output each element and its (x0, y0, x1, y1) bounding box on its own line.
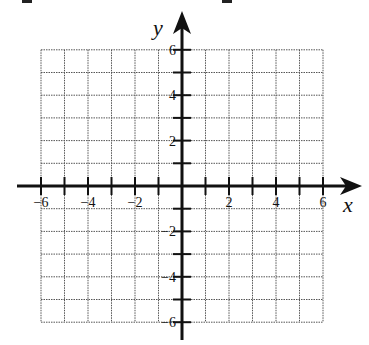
y-tick-label: −6 (161, 315, 176, 330)
coordinate-plane: −6−4−2246642−2−4−6 x y (0, 0, 369, 345)
x-tick-label: −4 (81, 195, 96, 210)
y-tick-label: 6 (169, 43, 176, 58)
y-tick-label: 4 (169, 88, 176, 103)
y-tick-label: 2 (169, 134, 176, 149)
axes (17, 11, 362, 340)
y-axis-label: y (151, 15, 163, 40)
x-tick-label: −2 (128, 195, 143, 210)
x-tick-label: 4 (273, 195, 280, 210)
x-tick-label: 2 (226, 195, 233, 210)
cutoff-header-glyphs (22, 0, 232, 3)
x-tick-label: −6 (34, 195, 49, 210)
y-tick-label: −2 (161, 224, 176, 239)
y-tick-label: −4 (161, 270, 176, 285)
x-axis-label: x (342, 192, 353, 217)
x-tick-label: 6 (320, 195, 327, 210)
